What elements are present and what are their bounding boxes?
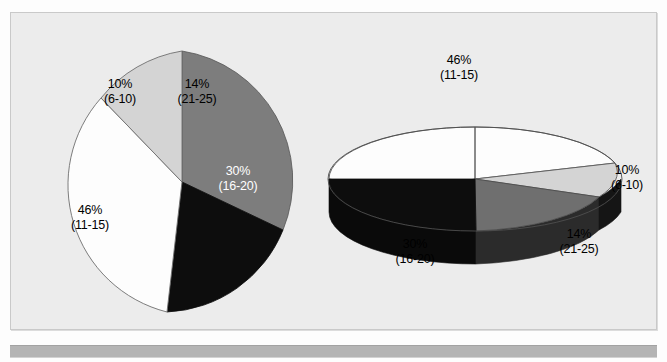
pie-3d-label-21-25-range: (21-25) xyxy=(543,242,615,257)
pie-3d-label-16-20: 30% (16-20) xyxy=(379,237,451,266)
pie-2d-label-11-15-pct: 46% xyxy=(54,203,126,218)
figure-panel: 10% (6-10) 14% (21-25) 30% (16-20) 46% (… xyxy=(10,12,657,330)
pie-2d-label-6-10-pct: 10% xyxy=(88,77,152,92)
pie-2d-label-11-15: 46% (11-15) xyxy=(54,203,126,232)
pie-3d-label-6-10: 10% (6-10) xyxy=(595,163,659,192)
pie-3d-label-11-15-pct: 46% xyxy=(423,53,495,68)
pie-3d-label-11-15: 46% (11-15) xyxy=(423,53,495,82)
pie-chart-2d: 10% (6-10) 14% (21-25) 30% (16-20) 46% (… xyxy=(36,25,336,325)
pie-3d-label-11-15-range: (11-15) xyxy=(423,68,495,83)
pie-2d-label-16-20-pct: 30% xyxy=(202,164,274,179)
pie-3d-label-16-20-range: (16-20) xyxy=(379,252,451,267)
pie-2d-label-16-20-range: (16-20) xyxy=(202,179,274,194)
pie-chart-3d: 46% (11-15) 10% (6-10) 14% (21-25) 30% (… xyxy=(306,51,661,301)
pie-3d-label-16-20-pct: 30% xyxy=(379,237,451,252)
pie-3d-label-21-25-pct: 14% xyxy=(543,227,615,242)
pie-2d-label-6-10-range: (6-10) xyxy=(88,92,152,107)
pie-3d-label-6-10-pct: 10% xyxy=(595,163,659,178)
pie-2d-label-11-15-range: (11-15) xyxy=(54,218,126,233)
pie-2d-label-21-25-pct: 14% xyxy=(161,77,233,92)
pie-3d-label-21-25: 14% (21-25) xyxy=(543,227,615,256)
pie-2d-label-6-10: 10% (6-10) xyxy=(88,77,152,106)
pie-3d-label-6-10-range: (6-10) xyxy=(595,178,659,193)
pie-2d-label-16-20: 30% (16-20) xyxy=(202,164,274,193)
pie-2d-label-21-25-range: (21-25) xyxy=(161,92,233,107)
bottom-divider-bar xyxy=(10,345,657,358)
pie-2d-label-21-25: 14% (21-25) xyxy=(161,77,233,106)
pie-chart-2d-svg xyxy=(36,25,336,325)
